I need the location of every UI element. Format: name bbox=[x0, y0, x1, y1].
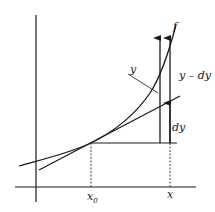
y-label: y bbox=[129, 63, 137, 76]
dy-label: dy bbox=[172, 121, 186, 134]
curve-f-label: f bbox=[172, 20, 179, 33]
x-label: x bbox=[167, 188, 174, 201]
y-minus-dy-label: y – dy bbox=[178, 69, 212, 82]
x0-label-sub: 0 bbox=[93, 197, 98, 205]
differential-diagram: f y y – dy dy x0 x bbox=[0, 0, 215, 212]
curve-f bbox=[19, 25, 176, 166]
y-pointer-line bbox=[128, 74, 158, 93]
diagram-canvas: f y y – dy dy x0 x bbox=[0, 0, 215, 212]
x0-label: x0 bbox=[87, 190, 98, 205]
tangent-line bbox=[39, 96, 180, 170]
